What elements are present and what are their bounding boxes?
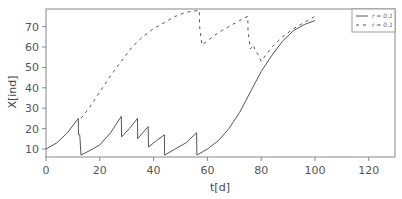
legend-label-solid: r = 0.1 <box>372 12 393 19</box>
y-tick-label: 70 <box>25 21 39 34</box>
y-tick-label: 50 <box>25 61 39 74</box>
x-tick-label: 20 <box>93 164 107 177</box>
x-axis-label: t[d] <box>210 181 230 194</box>
x-tick-label: 100 <box>305 164 326 177</box>
y-tick-label: 40 <box>25 82 39 95</box>
x-axis-ticks: 020406080100120 <box>43 157 380 177</box>
series-solid-line <box>46 21 315 156</box>
y-tick-label: 10 <box>25 143 39 156</box>
legend: r = 0.1 r = 0.1 <box>352 9 395 32</box>
legend-label-dashed: r = 0.1 <box>372 21 393 28</box>
x-tick-label: 120 <box>358 164 379 177</box>
y-tick-label: 30 <box>25 102 39 115</box>
y-tick-label: 20 <box>25 123 39 136</box>
y-axis-label: X[ind] <box>6 75 19 108</box>
line-chart: 020406080100120 10203040506070 t[d] X[in… <box>0 0 402 199</box>
plot-frame <box>46 9 395 157</box>
series-group <box>46 10 315 155</box>
x-tick-label: 60 <box>200 164 214 177</box>
x-tick-label: 40 <box>147 164 161 177</box>
y-axis-ticks: 10203040506070 <box>25 21 46 156</box>
x-tick-label: 0 <box>43 164 50 177</box>
y-tick-label: 60 <box>25 41 39 54</box>
x-tick-label: 80 <box>254 164 268 177</box>
series-dashed-line <box>81 10 315 118</box>
